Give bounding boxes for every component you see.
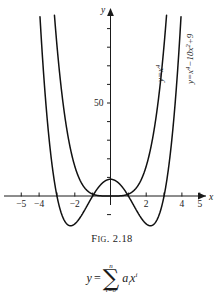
x-axis-label: x xyxy=(208,192,214,202)
formula-equals: = xyxy=(92,271,103,285)
y-axis-label: y xyxy=(100,5,106,15)
x-tick-label: −4 xyxy=(34,199,44,209)
curve-label-1: y=x4 xyxy=(154,64,165,83)
svg-text:y=x4−10x2+9: y=x4−10x2+9 xyxy=(184,33,195,85)
axes-group xyxy=(4,8,206,205)
svg-text:y=x4: y=x4 xyxy=(154,64,165,83)
y-tick-label: 50 xyxy=(94,98,104,108)
curve-label-1-base: y=x xyxy=(155,68,165,83)
figure-page: −5−4−2245 50 x y y=x4 y=x4−10x2+9 FIG. 2… xyxy=(0,0,224,299)
formula-term: aixi xyxy=(119,271,137,285)
x-tick-label: −2 xyxy=(70,199,80,209)
caption-number: . 2.18 xyxy=(107,233,133,244)
x-tick-label-group: −5−4−2245 xyxy=(16,199,202,209)
x-tick-label: −5 xyxy=(16,199,26,209)
plot-area: −5−4−2245 50 x y y=x4 y=x4−10x2+9 xyxy=(0,0,224,232)
polynomial-formula: y=n∑i=0aixi xyxy=(0,262,224,293)
x-tick-label: 2 xyxy=(144,199,149,209)
caption-smallcaps: IG xyxy=(97,235,106,244)
x-tick-label: 5 xyxy=(197,199,202,209)
curve-label-2-middle: −10x xyxy=(185,48,195,67)
figure-caption: FIG. 2.18 xyxy=(0,233,224,244)
curve-label-2: y=x4−10x2+9 xyxy=(184,33,195,85)
curve-label-1-exponent: 4 xyxy=(154,64,161,68)
y-tick-label-group: 50 xyxy=(94,98,104,108)
formula-variable-exponent: i xyxy=(135,271,137,279)
curve-label-2-tail: +9 xyxy=(185,33,195,44)
x-tick-label: 4 xyxy=(180,199,185,209)
curve-label-2-base: y=x xyxy=(185,70,195,85)
summation-operator: n∑i=0 xyxy=(103,263,119,294)
y-axis-arrow xyxy=(107,8,114,16)
graph-svg: −5−4−2245 50 x y y=x4 y=x4−10x2+9 xyxy=(0,0,224,232)
